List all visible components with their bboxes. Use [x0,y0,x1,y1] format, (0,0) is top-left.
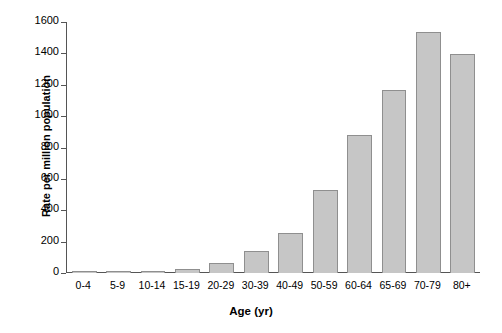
x-axis-tick-label: 30-39 [238,279,272,291]
bar[interactable] [175,269,200,273]
y-axis-tick-mark [61,210,66,211]
bar-column[interactable] [209,22,234,273]
bar[interactable] [313,190,338,273]
y-axis-tick-mark [61,242,66,243]
bar-column[interactable] [382,22,407,273]
y-axis-tick-label: 200 [41,234,59,246]
y-axis-tick-label: 600 [41,171,59,183]
x-axis-tick-label: 65-69 [376,279,410,291]
y-axis-tick-mark [61,22,66,23]
bar[interactable] [416,32,441,273]
x-axis-tick-label: 60-64 [341,279,375,291]
x-axis-tick-label: 80+ [445,279,479,291]
y-axis-tick-label: 1600 [35,14,59,26]
x-axis-tick-label: 20-29 [204,279,238,291]
y-axis-tick-label: 800 [41,140,59,152]
plot-area: 02004006008001000120014001600 0-45-910-1… [66,22,480,273]
bar-column[interactable] [244,22,269,273]
y-axis-tick-mark [61,85,66,86]
y-axis-tick-label: 1400 [35,45,59,57]
bar-column[interactable] [175,22,200,273]
x-axis-tick-label: 10-14 [135,279,169,291]
y-axis-tick-mark [61,116,66,117]
x-axis-tick-label: 40-49 [273,279,307,291]
y-axis-tick-label: 400 [41,202,59,214]
bar[interactable] [278,233,303,273]
bar[interactable] [244,251,269,273]
bar-column[interactable] [416,22,441,273]
y-axis-tick-label: 1000 [35,108,59,120]
bar-column[interactable] [347,22,372,273]
x-axis-tick-label: 70-79 [410,279,444,291]
x-axis-tick-label: 15-19 [169,279,203,291]
bar-series [67,22,480,273]
bar-column[interactable] [141,22,166,273]
x-axis-title: Age (yr) [0,305,502,317]
bar-chart-figure: Rate per million population 020040060080… [0,0,502,333]
bar[interactable] [382,90,407,273]
bar-column[interactable] [313,22,338,273]
bar[interactable] [347,135,372,273]
bar[interactable] [72,271,97,273]
bar[interactable] [106,271,131,273]
bar-column[interactable] [106,22,131,273]
bar[interactable] [141,271,166,273]
x-axis-tick-label: 5-9 [100,279,134,291]
x-axis-tick-label: 0-4 [66,279,100,291]
y-axis-tick-mark [61,53,66,54]
bar-column[interactable] [72,22,97,273]
y-axis-tick-label: 0 [53,265,59,277]
y-axis-tick-label: 1200 [35,77,59,89]
x-axis-tick-label: 50-59 [307,279,341,291]
y-axis-tick-mark [61,179,66,180]
bar[interactable] [209,263,234,273]
bar-column[interactable] [450,22,475,273]
bar-column[interactable] [278,22,303,273]
y-axis-tick-mark [61,273,66,274]
y-axis-tick-mark [61,148,66,149]
bar[interactable] [450,54,475,273]
